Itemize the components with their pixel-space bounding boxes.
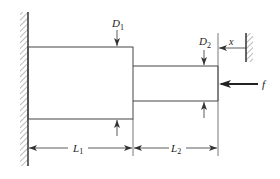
bar-section-2 (133, 66, 218, 101)
l2-label: L2 (170, 142, 181, 156)
d2-dimension: D2 (198, 35, 211, 118)
d2-label: D2 (198, 35, 211, 50)
f-label: f (262, 78, 267, 90)
d1-dimension: D1 (111, 17, 124, 136)
right-wall (246, 33, 253, 62)
l1-label: L1 (72, 142, 83, 156)
stepped-bar-diagram: D1 D2 x f L1 L2 (0, 0, 280, 179)
bar-section-1 (28, 47, 133, 119)
force-f: f (219, 78, 267, 90)
left-fixed-wall (20, 12, 28, 166)
d1-label: D1 (111, 17, 124, 32)
x-label: x (228, 36, 234, 47)
gap-x-dimension: x (219, 36, 246, 48)
l1-dimension: L1 (29, 142, 132, 156)
l2-dimension: L2 (134, 142, 217, 156)
